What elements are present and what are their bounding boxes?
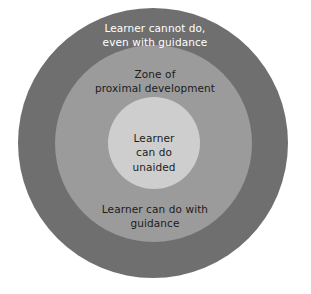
middle-ring-label-top: Zone of proximal development <box>50 67 260 96</box>
caption-fragment <box>5 283 205 293</box>
inner-circle-label: Learner can do unaided <box>108 131 200 174</box>
outer-ring-label: Learner cannot do, even with guidance <box>60 21 250 50</box>
middle-ring-label-bottom: Learner can do with guidance <box>50 202 260 231</box>
zone-of-proximal-development-diagram: Learner cannot do, even with guidance Zo… <box>0 0 311 294</box>
